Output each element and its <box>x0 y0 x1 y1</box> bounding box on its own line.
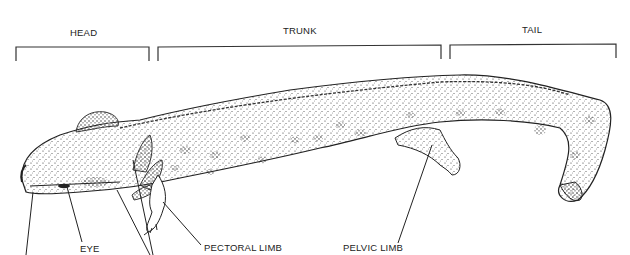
salamander-body <box>21 75 611 201</box>
trunk-bracket <box>158 45 441 61</box>
region-label-tail: TAIL <box>522 24 542 35</box>
callout-label-eye: EYE <box>80 243 100 254</box>
snout-callout-line <box>26 192 33 255</box>
eye-callout-line <box>67 187 82 242</box>
callout-label-pectoral-limb: PECTORAL LIMB <box>204 242 282 253</box>
head-bracket <box>16 47 149 61</box>
region-label-head: HEAD <box>70 27 97 38</box>
pelvic-limb <box>395 128 460 175</box>
pectoral-callout-line <box>163 202 201 245</box>
salamander-diagram <box>0 0 630 255</box>
pelvic-callout-line <box>398 145 432 243</box>
region-label-trunk: TRUNK <box>283 25 317 36</box>
callout-label-pelvic-limb: PELVIC LIMB <box>343 242 403 253</box>
eye-shape <box>58 184 70 188</box>
tail-bracket <box>450 44 616 59</box>
